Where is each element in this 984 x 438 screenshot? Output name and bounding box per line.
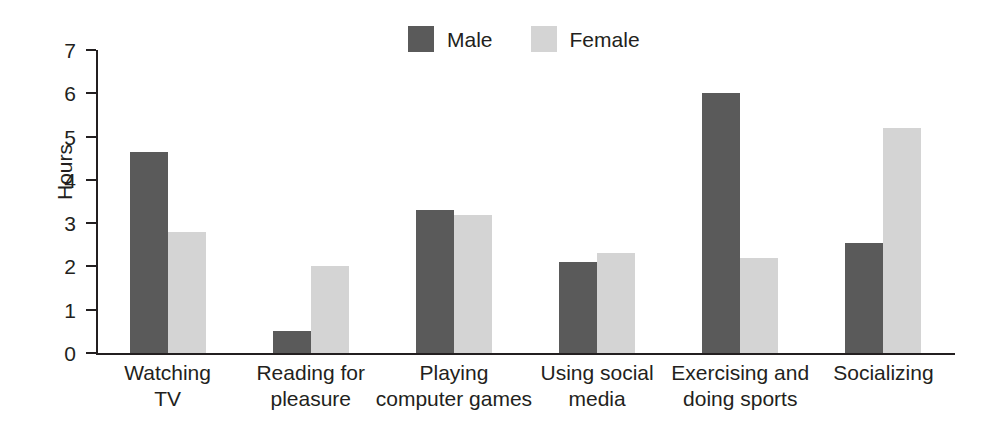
y-axis-tick: 4 [86, 179, 96, 181]
bar-female[interactable] [883, 128, 921, 353]
y-axis-tick: 1 [86, 309, 96, 311]
x-axis-label-line2: media [514, 386, 681, 412]
bar-male[interactable] [130, 152, 168, 353]
y-axis-tick-label: 2 [64, 256, 76, 277]
x-axis-label: WatchingTV [84, 360, 251, 412]
legend-label-male: Male [447, 29, 493, 50]
bar-male[interactable] [273, 331, 311, 353]
y-axis-tick: 2 [86, 265, 96, 267]
bar-male[interactable] [845, 243, 883, 353]
y-axis-tick: 5 [86, 136, 96, 138]
x-axis-label-line2: computer games [370, 386, 537, 412]
bar-group [702, 50, 778, 353]
bar-group [130, 50, 206, 353]
x-axis-label: Socializing [800, 360, 967, 386]
x-axis-label-line2: doing sports [657, 386, 824, 412]
x-axis-line [96, 353, 955, 355]
bar-group [416, 50, 492, 353]
y-axis-tick-label: 6 [64, 83, 76, 104]
bars-layer [96, 50, 955, 353]
x-axis-label-line2: pleasure [227, 386, 394, 412]
x-axis-label-line1: Playing [419, 361, 488, 384]
bar-female[interactable] [740, 258, 778, 353]
y-axis-tick-label: 1 [64, 299, 76, 320]
y-axis-tick-label: 0 [64, 343, 76, 364]
y-axis-tick: 6 [86, 92, 96, 94]
y-axis-tick-label: 3 [64, 213, 76, 234]
bar-group [845, 50, 921, 353]
x-axis-label-line1: Reading for [256, 361, 365, 384]
y-axis-tick: 3 [86, 222, 96, 224]
x-axis-label: Exercising anddoing sports [657, 360, 824, 412]
bar-female[interactable] [597, 253, 635, 353]
x-axis-label-line2: TV [84, 386, 251, 412]
bar-female[interactable] [311, 266, 349, 353]
bar-male[interactable] [702, 93, 740, 353]
legend-entry-male: Male [408, 26, 493, 52]
x-axis-label: Using socialmedia [514, 360, 681, 412]
legend-entry-female: Female [531, 26, 640, 52]
chart-legend: Male Female [408, 26, 640, 52]
legend-swatch-female [531, 26, 557, 52]
y-axis-tick: 0 [86, 352, 96, 354]
x-axis-label: Playingcomputer games [370, 360, 537, 412]
legend-label-female: Female [570, 29, 640, 50]
grouped-bar-chart: Male Female Hours 01234567 WatchingTVRea… [0, 0, 984, 438]
x-axis-label: Reading forpleasure [227, 360, 394, 412]
bar-female[interactable] [454, 215, 492, 354]
x-axis-labels: WatchingTVReading forpleasurePlayingcomp… [96, 360, 955, 430]
x-axis-label-line1: Exercising and [671, 361, 809, 384]
bar-male[interactable] [416, 210, 454, 353]
y-axis-tick-label: 7 [64, 40, 76, 61]
y-axis-tick-label: 5 [64, 126, 76, 147]
y-axis-tick-label: 4 [64, 169, 76, 190]
bar-group [559, 50, 635, 353]
bar-male[interactable] [559, 262, 597, 353]
bar-group [273, 50, 349, 353]
plot-area: 01234567 [96, 50, 955, 353]
legend-swatch-male [408, 26, 434, 52]
x-axis-label-line1: Using social [540, 361, 653, 384]
x-axis-label-line1: Socializing [833, 361, 933, 384]
x-axis-label-line1: Watching [124, 361, 211, 384]
y-axis-tick: 7 [86, 49, 96, 51]
bar-female[interactable] [168, 232, 206, 353]
